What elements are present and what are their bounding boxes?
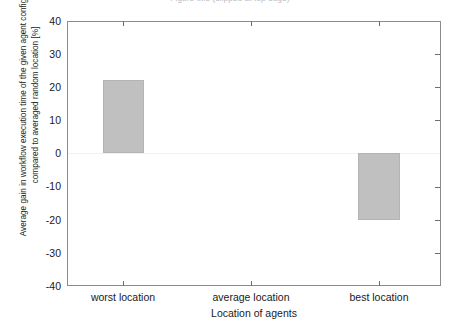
x-tick-label-average: average location <box>181 290 321 304</box>
x-tick-mark-best <box>379 281 380 286</box>
y-tick-mark-right-10 <box>435 120 440 121</box>
chart-title: Figure title (clipped at top edge) <box>40 0 420 5</box>
x-tick-label-worst: worst location <box>53 290 193 304</box>
x-tick-mark-top-average <box>251 21 252 26</box>
y-tick-label-30: 30 <box>0 48 67 60</box>
y-tick-label-neg10: -10 <box>0 180 67 192</box>
y-tick-label-0: 0 <box>0 147 67 159</box>
bar-chart-figure: Figure title (clipped at top edge) Avera… <box>0 0 456 332</box>
y-tick-label-neg30: -30 <box>0 247 67 259</box>
y-tick-label-neg20: -20 <box>0 214 67 226</box>
bar-best-location <box>358 153 400 220</box>
y-tick-mark-right-neg30 <box>435 253 440 254</box>
plot-area <box>67 21 441 286</box>
y-tick-mark-right-20 <box>435 87 440 88</box>
y-tick-label-20: 20 <box>0 81 67 93</box>
x-tick-label-best: best location <box>309 290 449 304</box>
y-tick-label-40: 40 <box>0 15 67 27</box>
x-tick-mark-top-worst <box>123 21 124 26</box>
y-tick-mark-right-neg20 <box>435 220 440 221</box>
x-tick-mark-top-best <box>379 21 380 26</box>
plot-inner <box>68 22 440 285</box>
y-tick-label-10: 10 <box>0 114 67 126</box>
x-tick-mark-average <box>251 281 252 286</box>
x-axis-label: Location of agents <box>67 306 441 320</box>
bar-worst-location <box>103 80 144 153</box>
y-tick-mark-right-neg10 <box>435 187 440 188</box>
y-tick-mark-right-30 <box>435 54 440 55</box>
x-tick-mark-worst <box>123 281 124 286</box>
